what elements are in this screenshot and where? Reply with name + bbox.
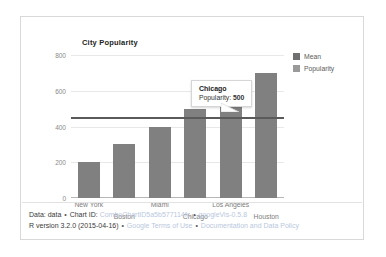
legend-item-label: Popularity — [304, 65, 334, 72]
footer-separator: • — [192, 211, 196, 218]
footer-chart-id-label: Chart ID: — [70, 211, 98, 218]
plot-inner: 0200400600800 — [71, 55, 284, 198]
tooltip-body: Popularity: 500 — [199, 94, 244, 101]
mean-line[interactable] — [71, 117, 284, 119]
tooltip-metric-label: Popularity: — [199, 94, 231, 101]
footer-googlevis-version: googleVis-0.5.8 — [199, 211, 248, 218]
footer-separator: • — [120, 222, 124, 229]
gridline — [71, 55, 284, 56]
gridline — [71, 162, 284, 163]
footer-line-2: R version 3.2.0 (2015-04-16) • Google Te… — [29, 220, 362, 231]
footer-chart-id: ComboChartID5a5b577114fc — [100, 211, 191, 218]
legend-item-mean[interactable]: Mean — [293, 53, 334, 60]
y-axis-tick-label: 800 — [55, 52, 66, 59]
footer-terms-link[interactable]: Google Terms of Use — [127, 222, 193, 229]
footer-docs-link[interactable]: Documentation and Data Policy — [201, 222, 299, 229]
chart-legend: MeanPopularity — [293, 53, 334, 77]
bar-boston[interactable] — [113, 144, 135, 198]
footer-separator: • — [63, 211, 67, 218]
chart-footer: Data: data • Chart ID: ComboChartID5a5b5… — [22, 202, 362, 239]
y-axis-tick-label: 0 — [62, 195, 66, 202]
chart-card: City Popularity 0200400600800 New YorkBo… — [20, 16, 364, 240]
bar-houston[interactable] — [255, 73, 277, 198]
square-swatch-icon — [293, 53, 300, 60]
footer-separator: • — [194, 222, 198, 229]
square-swatch-icon — [293, 65, 300, 72]
tooltip-title: Chicago — [199, 85, 244, 92]
footer-line-1: Data: data • Chart ID: ComboChartID5a5b5… — [29, 209, 362, 220]
legend-item-popularity[interactable]: Popularity — [293, 65, 334, 72]
gridline — [71, 127, 284, 128]
bar-miami[interactable] — [149, 127, 171, 199]
bar-chicago[interactable] — [184, 109, 206, 198]
axis-baseline — [71, 197, 284, 198]
bar-new-york[interactable] — [78, 162, 100, 198]
tooltip-metric-value: 500 — [233, 94, 244, 101]
chart-title: City Popularity — [82, 38, 138, 47]
footer-r-version: R version 3.2.0 (2015-04-16) — [29, 222, 119, 229]
footer-data-label: Data: data — [29, 211, 61, 218]
y-axis-tick-label: 200 — [55, 159, 66, 166]
y-axis-tick-label: 600 — [55, 87, 66, 94]
plot-area: 0200400600800 New YorkBostonMiamiChicago… — [71, 55, 284, 198]
legend-item-label: Mean — [304, 53, 321, 60]
tooltip-pointer-icon — [221, 103, 239, 112]
bar-los-angeles[interactable] — [220, 100, 242, 198]
y-axis-tick-label: 400 — [55, 123, 66, 130]
